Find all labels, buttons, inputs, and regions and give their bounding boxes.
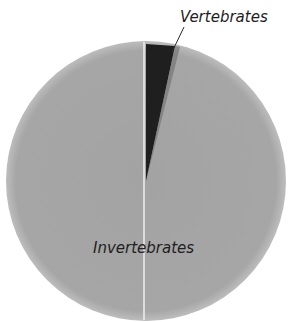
vertebrates-label: Vertebrates bbox=[180, 8, 268, 26]
pie-chart: Vertebrates Invertebrates bbox=[0, 0, 291, 322]
invertebrates-label: Invertebrates bbox=[93, 239, 194, 257]
